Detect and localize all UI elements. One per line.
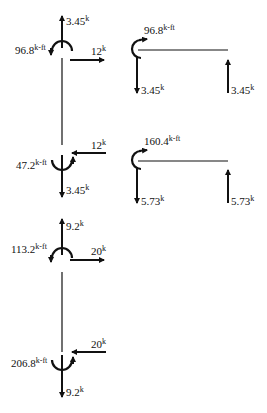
moment-label: 47.2k-ft (16, 160, 47, 171)
shear-force-label: 20k (91, 339, 106, 350)
left-reaction-label: 5.73k (141, 196, 164, 207)
right-reaction-label: 5.73k (231, 196, 254, 207)
moment-label: 96.8k-ft (15, 45, 46, 56)
moment-arc-icon (132, 40, 141, 58)
moment-label: 160.4k-ft (144, 136, 180, 147)
moment-arrow-icon (139, 39, 147, 40)
shear-force-label: 20k (91, 246, 106, 257)
upper-column (51, 16, 106, 197)
axial-force-label: 3.45k (66, 16, 89, 27)
moment-arc-icon (132, 151, 141, 169)
axial-force-label: 9.2k (66, 221, 84, 232)
moment-label: 96.8k-ft (144, 25, 175, 36)
left-reaction-label: 3.45k (141, 85, 164, 96)
axial-force-label: 3.45k (66, 185, 89, 196)
right-reaction-label: 3.45k (231, 85, 254, 96)
axial-force-label: 9.2k (66, 387, 84, 398)
moment-label: 113.2k-ft (11, 244, 47, 255)
moment-arrow-icon (139, 150, 147, 151)
free-body-diagram (0, 0, 267, 413)
shear-force-label: 12k (91, 46, 106, 57)
shear-force-label: 12k (91, 140, 106, 151)
moment-label: 206.8k-ft (11, 358, 47, 369)
